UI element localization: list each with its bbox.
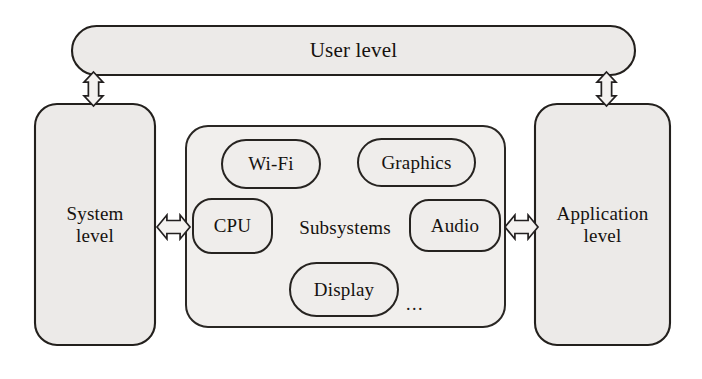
application-level-shape[interactable] — [535, 104, 670, 345]
connector-arrow-user-to-system[interactable] — [84, 72, 103, 106]
subsystem-shape-audio[interactable] — [410, 200, 500, 251]
subsystem-shape-cpu[interactable] — [193, 199, 272, 253]
user-level-shape[interactable] — [72, 26, 635, 75]
connector-arrow-user-to-application[interactable] — [597, 72, 616, 106]
system-level-shape[interactable] — [35, 104, 155, 345]
subsystem-shape-wi-fi[interactable] — [222, 140, 320, 188]
connector-arrow-subsystems-to-application[interactable] — [505, 215, 538, 239]
subsystem-shape-graphics[interactable] — [358, 139, 475, 186]
subsystem-shape-display[interactable] — [290, 263, 398, 316]
diagram-shape-layer — [0, 0, 702, 379]
architecture-diagram: User level System level Application leve… — [0, 0, 702, 379]
